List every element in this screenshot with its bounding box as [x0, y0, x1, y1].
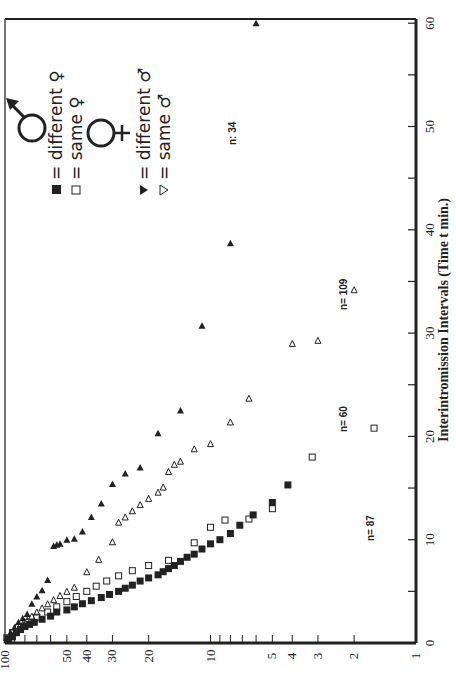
n-label-87: n= 87: [365, 515, 376, 541]
data-point-different-female: [198, 545, 205, 552]
data-point-different-male: [28, 600, 35, 607]
data-point-same-female: [84, 588, 90, 594]
percent-tick-label: 1: [408, 653, 423, 660]
data-point-same-female: [191, 540, 197, 546]
time-tick-label: 60: [422, 17, 437, 30]
data-point-same-female: [104, 578, 110, 584]
data-point-different-male: [44, 576, 51, 583]
percent-tick-label: 2: [346, 653, 361, 660]
male-symbol-icon: [6, 98, 45, 141]
open-triangle-icon: [160, 185, 168, 195]
data-point-different-female: [115, 588, 122, 595]
data-point-same-male: [57, 592, 63, 598]
data-point-different-female: [216, 536, 223, 543]
filled-triangle-icon: [140, 185, 148, 195]
time-axis-title: Interintromission Intervals (Time t min.…: [436, 198, 452, 442]
data-point-different-male: [198, 322, 205, 329]
data-point-same-male: [171, 461, 177, 467]
data-point-same-female: [64, 599, 70, 605]
data-point-different-female: [177, 558, 184, 565]
data-point-same-male: [51, 597, 57, 603]
data-point-different-male: [109, 480, 116, 487]
data-point-different-male: [88, 513, 95, 520]
percent-tick-label: 30: [104, 650, 119, 663]
data-point-same-male: [177, 458, 183, 464]
data-point-same-female: [309, 454, 315, 460]
data-point-same-male: [45, 601, 51, 607]
data-point-different-female: [88, 597, 95, 604]
data-point-same-female: [129, 568, 135, 574]
data-point-different-male: [122, 470, 129, 477]
data-point-same-female: [146, 563, 152, 569]
time-tick-label: 10: [422, 533, 437, 546]
time-tick-label: 0: [422, 640, 437, 647]
filled-square-icon: [52, 185, 61, 194]
n-label-60: n= 60: [338, 406, 349, 432]
data-point-same-male: [160, 484, 166, 490]
data-point-different-female: [79, 600, 86, 607]
survivorship-chart: 0102030405060 100504030201054321 = diffe…: [0, 0, 456, 681]
time-tick-label: 20: [422, 430, 437, 443]
legend: = different ♀ = same ♀ = different ♂ = s…: [6, 68, 174, 196]
data-point-different-female: [145, 574, 152, 581]
data-point-different-female: [71, 603, 78, 610]
data-point-same-male: [191, 446, 197, 452]
data-point-same-female: [166, 557, 172, 563]
time-tick-label: 40: [422, 223, 437, 236]
percent-tick-label: 20: [141, 650, 156, 663]
percent-tick-label: 50: [59, 650, 74, 663]
open-square-icon: [72, 186, 80, 194]
data-point-same-male: [96, 556, 102, 562]
data-point-different-female: [137, 578, 144, 585]
data-point-same-male: [227, 419, 233, 425]
percent-tick-label: 40: [79, 650, 94, 663]
data-point-different-female: [191, 551, 198, 558]
percent-tick-label: 4: [284, 652, 299, 659]
data-point-different-male: [39, 587, 46, 594]
data-point-same-male: [84, 569, 90, 575]
data-point-same-male: [39, 605, 45, 611]
data-point-same-female: [208, 524, 214, 530]
data-point-same-female: [269, 506, 275, 512]
data-point-different-male: [79, 528, 86, 535]
data-point-same-male: [146, 495, 152, 501]
legend-different-female: = different ♀: [46, 70, 66, 180]
data-point-same-male: [122, 514, 128, 520]
data-point-different-female: [250, 511, 257, 518]
legend-different-male: = different ♂: [134, 68, 154, 181]
data-point-same-male: [71, 584, 77, 590]
data-point-same-female: [93, 583, 99, 589]
data-point-same-female: [116, 573, 122, 579]
data-point-different-male: [177, 407, 184, 414]
data-point-same-female: [73, 594, 79, 600]
data-point-different-female: [106, 591, 113, 598]
data-point-different-male: [98, 500, 105, 507]
data-point-same-male: [351, 287, 357, 293]
data-point-same-male: [208, 441, 214, 447]
female-symbol-icon: [88, 120, 130, 146]
data-point-different-female: [98, 594, 105, 601]
n-label-34: n: 34: [227, 121, 238, 145]
data-point-different-female: [184, 554, 191, 561]
data-point-different-male: [155, 430, 162, 437]
data-point-different-male: [24, 611, 31, 618]
data-point-different-male: [71, 535, 78, 542]
data-point-different-female: [227, 530, 234, 537]
data-point-same-female: [371, 425, 377, 431]
percent-tick-label: 100: [0, 650, 12, 670]
data-point-different-female: [269, 499, 276, 506]
data-point-different-female: [63, 606, 70, 613]
data-point-same-male: [64, 588, 70, 594]
data-point-different-male: [63, 536, 70, 543]
data-point-different-male: [227, 240, 234, 247]
data-point-different-female: [207, 540, 214, 547]
time-tick-label: 30: [422, 327, 437, 340]
legend-same-female: = same ♀: [66, 96, 86, 180]
data-point-same-male: [166, 469, 172, 475]
data-point-different-female: [284, 481, 291, 488]
data-point-different-male: [137, 464, 144, 471]
data-point-different-male: [33, 593, 40, 600]
data-point-different-female: [129, 582, 136, 589]
data-point-same-male: [109, 539, 115, 545]
time-axis-ticks: 0102030405060: [408, 17, 437, 647]
